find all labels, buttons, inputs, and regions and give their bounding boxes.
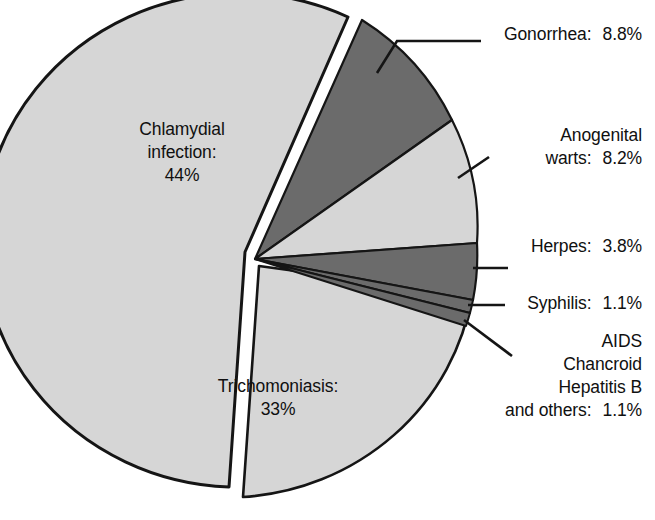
pie-chart-graphic xyxy=(0,0,655,520)
callout-label-aids-line-1: AIDS xyxy=(380,330,642,353)
callout-label-aids-value: 1.1% xyxy=(603,399,643,422)
callout-label-aids-line-3: Hepatitis B xyxy=(380,376,642,399)
callout-label-herpes-line: Herpes:3.8% xyxy=(380,235,642,258)
callout-label-aids-line-2: Chancroid xyxy=(380,353,642,376)
callout-label-aids-chancroid-hepatitis-b-and-others: AIDS Chancroid Hepatitis B and others:1.… xyxy=(380,330,642,422)
callout-label-aids-line-4: and others:1.1% xyxy=(380,399,642,422)
callout-label-herpes-name: Herpes: xyxy=(531,236,592,256)
callout-label-syphilis-name: Syphilis: xyxy=(527,293,591,313)
pie-chart-figure: Chlamydial infection: 44% Trichomoniasis… xyxy=(0,0,655,520)
slice-label-trichomoniasis-line-1: Trichomoniasis: xyxy=(180,375,376,398)
callout-label-anogenital-warts: Anogenital warts:8.2% xyxy=(380,124,642,170)
slice-label-chlamydial-value: 44% xyxy=(88,164,276,187)
callout-label-gonorrhea: Gonorrhea:8.8% xyxy=(380,23,642,46)
slice-label-trichomoniasis-value: 33% xyxy=(180,398,376,421)
callout-label-syphilis-line: Syphilis:1.1% xyxy=(380,292,642,315)
slice-label-trichomoniasis: Trichomoniasis: 33% xyxy=(180,375,376,421)
callout-label-gonorrhea-line: Gonorrhea:8.8% xyxy=(380,23,642,46)
callout-label-aids-name: and others: xyxy=(505,400,591,420)
callout-label-syphilis-value: 1.1% xyxy=(603,292,643,315)
callout-label-herpes: Herpes:3.8% xyxy=(380,235,642,258)
slice-label-chlamydial-infection: Chlamydial infection: 44% xyxy=(88,118,276,187)
callout-label-gonorrhea-name: Gonorrhea: xyxy=(504,24,592,44)
callout-label-anogenital-line-1: Anogenital xyxy=(380,124,642,147)
callout-label-herpes-value: 3.8% xyxy=(603,235,643,258)
slice-label-chlamydial-line-2: infection: xyxy=(88,141,276,164)
callout-label-syphilis: Syphilis:1.1% xyxy=(380,292,642,315)
callout-label-gonorrhea-value: 8.8% xyxy=(603,23,643,46)
callout-label-anogenital-line-2: warts:8.2% xyxy=(380,147,642,170)
callout-label-anogenital-name: warts: xyxy=(545,148,591,168)
callout-label-anogenital-value: 8.2% xyxy=(603,147,643,170)
slice-label-chlamydial-line-1: Chlamydial xyxy=(88,118,276,141)
